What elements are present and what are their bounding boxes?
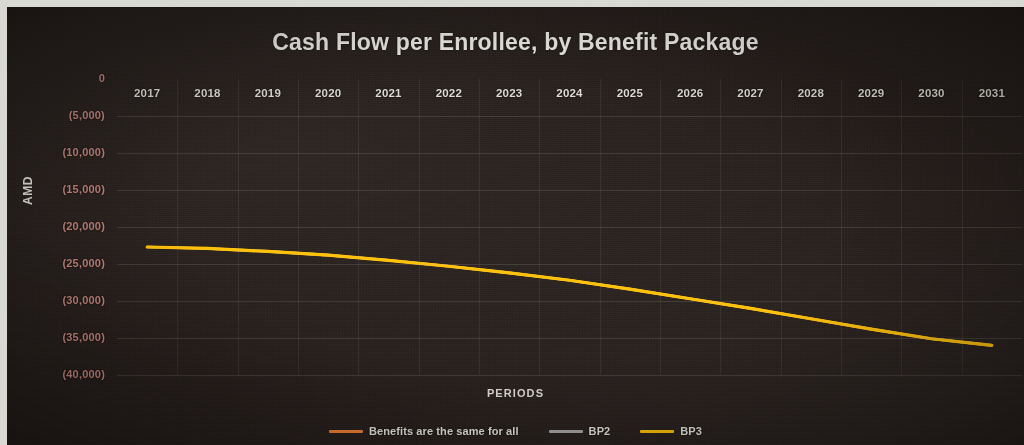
vertical-gridline [841, 79, 842, 375]
y-tick-label: 0 [41, 72, 105, 84]
x-tick-label: 2020 [299, 87, 357, 99]
x-tick-label: 2029 [842, 87, 900, 99]
series-line [147, 247, 992, 345]
x-tick-label: 2027 [722, 87, 780, 99]
horizontal-gridline [117, 301, 1022, 302]
y-tick-label: (10,000) [41, 146, 105, 158]
x-tick-label: 2019 [239, 87, 297, 99]
plot-area [117, 79, 1022, 375]
legend-swatch-icon [640, 430, 674, 433]
series-line [147, 247, 992, 345]
vertical-gridline [177, 79, 178, 375]
y-tick-label: (5,000) [41, 109, 105, 121]
vertical-gridline [238, 79, 239, 375]
x-axis-tick-labels: 2017201820192020202120222023202420252026… [117, 87, 1022, 103]
legend-label: Benefits are the same for all [369, 425, 519, 437]
legend-item[interactable]: BP3 [640, 425, 702, 437]
vertical-gridline [720, 79, 721, 375]
horizontal-gridline [117, 116, 1022, 117]
chart-title: Cash Flow per Enrollee, by Benefit Packa… [7, 29, 1024, 56]
vertical-gridline [358, 79, 359, 375]
legend-label: BP3 [680, 425, 702, 437]
vertical-gridline [660, 79, 661, 375]
vertical-gridline [419, 79, 420, 375]
chart-container: Cash Flow per Enrollee, by Benefit Packa… [7, 7, 1024, 445]
x-tick-label: 2031 [963, 87, 1021, 99]
x-tick-label: 2017 [118, 87, 176, 99]
x-tick-label: 2022 [420, 87, 478, 99]
x-tick-label: 2030 [903, 87, 961, 99]
legend-swatch-icon [329, 430, 363, 433]
y-tick-label: (15,000) [41, 183, 105, 195]
series-line [147, 247, 992, 345]
x-tick-label: 2018 [179, 87, 237, 99]
vertical-gridline [479, 79, 480, 375]
y-axis-title: AMD [21, 176, 35, 205]
vertical-gridline [600, 79, 601, 375]
horizontal-gridline [117, 227, 1022, 228]
legend-label: BP2 [589, 425, 611, 437]
photo-frame: Cash Flow per Enrollee, by Benefit Packa… [0, 0, 1024, 445]
x-tick-label: 2025 [601, 87, 659, 99]
y-tick-label: (40,000) [41, 368, 105, 380]
chart-legend: Benefits are the same for allBP2BP3 [7, 425, 1024, 437]
horizontal-gridline [117, 264, 1022, 265]
legend-swatch-icon [549, 430, 583, 433]
vertical-gridline [298, 79, 299, 375]
vertical-gridline [901, 79, 902, 375]
y-tick-label: (30,000) [41, 294, 105, 306]
x-tick-label: 2026 [661, 87, 719, 99]
horizontal-gridline [117, 338, 1022, 339]
y-tick-label: (20,000) [41, 220, 105, 232]
horizontal-gridline [117, 190, 1022, 191]
x-tick-label: 2021 [360, 87, 418, 99]
legend-item[interactable]: Benefits are the same for all [329, 425, 519, 437]
vertical-gridline [539, 79, 540, 375]
y-tick-label: (25,000) [41, 257, 105, 269]
horizontal-gridline [117, 375, 1022, 376]
x-tick-label: 2024 [541, 87, 599, 99]
y-tick-label: (35,000) [41, 331, 105, 343]
y-axis-tick-labels: 0(5,000)(10,000)(15,000)(20,000)(25,000)… [37, 7, 105, 445]
vertical-gridline [962, 79, 963, 375]
x-tick-label: 2028 [782, 87, 840, 99]
legend-item[interactable]: BP2 [549, 425, 611, 437]
vertical-gridline [781, 79, 782, 375]
horizontal-gridline [117, 153, 1022, 154]
x-tick-label: 2023 [480, 87, 538, 99]
x-axis-title: PERIODS [7, 387, 1024, 399]
